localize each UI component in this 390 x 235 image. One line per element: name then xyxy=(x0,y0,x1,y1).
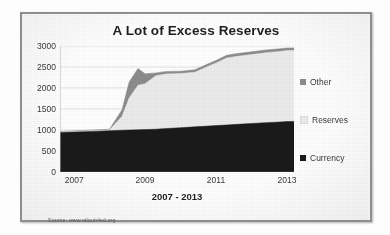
chart-legend: OtherReservesCurrency xyxy=(300,76,370,190)
chart-figure-frame: A Lot of Excess Reserves 050010001500200… xyxy=(20,12,372,222)
x-axis-tick: 2007 xyxy=(65,175,84,185)
legend-swatch-other xyxy=(300,79,306,85)
source-note: Source: www.stlouisfed.org xyxy=(48,217,116,223)
x-axis-tick: 2009 xyxy=(136,175,155,185)
x-axis-title: 2007 - 2013 xyxy=(60,191,294,202)
stacked-area-chart xyxy=(60,46,294,172)
x-axis-tick: 2011 xyxy=(207,175,225,185)
legend-item-other[interactable]: Other xyxy=(300,76,370,87)
y-axis-tick: 2000 xyxy=(26,83,56,93)
y-axis-tick: 0 xyxy=(26,167,56,177)
legend-swatch-reserves xyxy=(300,116,308,124)
plot-area xyxy=(60,46,294,172)
y-axis-tick-labels: 050010001500200025003000 xyxy=(22,46,56,172)
chart-title: A Lot of Excess Reserves xyxy=(22,23,370,38)
y-axis-tick: 3000 xyxy=(26,41,56,51)
legend-label-currency: Currency xyxy=(310,153,344,163)
y-axis-tick: 1000 xyxy=(26,125,56,135)
legend-item-currency[interactable]: Currency xyxy=(300,152,370,163)
x-axis-tick-labels: 2007200920112013 xyxy=(60,175,294,189)
y-axis-tick: 500 xyxy=(26,146,56,156)
legend-item-reserves[interactable]: Reserves xyxy=(300,114,370,125)
legend-swatch-currency xyxy=(300,155,306,161)
y-axis-tick: 2500 xyxy=(26,62,56,72)
legend-label-other: Other xyxy=(310,77,331,87)
legend-label-reserves: Reserves xyxy=(312,115,348,125)
y-axis-tick: 1500 xyxy=(26,104,56,114)
x-axis-tick: 2013 xyxy=(277,175,296,185)
